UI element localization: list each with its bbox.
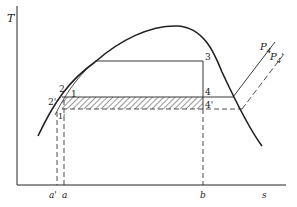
point-2-label: 2 xyxy=(59,84,65,94)
tick-a: a xyxy=(62,190,67,200)
hatched-area xyxy=(62,97,203,109)
point-4-label: 4 xyxy=(205,87,211,97)
isobar-p4-prime-label: P4' xyxy=(269,51,283,65)
tick-b: b xyxy=(200,190,206,200)
saturation-dome xyxy=(38,26,262,146)
point-3-label: 3 xyxy=(205,52,211,62)
s-axis-label: s xyxy=(262,190,267,200)
point-1p-label: 1' xyxy=(58,112,65,121)
ts-diagram: T s a' a b 2 1 2' 1' 3 4 4' P4 P4' xyxy=(0,0,297,207)
t-axis-label: T xyxy=(7,12,16,25)
point-4p-label: 4' xyxy=(205,100,213,110)
point-2p-label: 2' xyxy=(48,97,56,107)
tick-a-prime: a' xyxy=(49,190,57,200)
point-1-label: 1 xyxy=(71,89,77,99)
